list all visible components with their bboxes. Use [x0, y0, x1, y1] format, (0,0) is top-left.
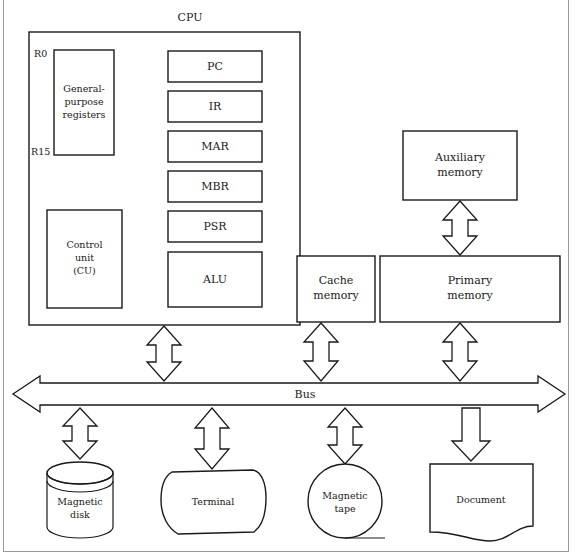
register-label-mar: MAR — [201, 140, 229, 153]
arrow-primary-bus — [443, 323, 477, 381]
system-bus[interactable] — [13, 376, 565, 412]
cache-memory-label-line1: Cache — [319, 274, 354, 287]
arrow-bus-document — [452, 408, 490, 461]
cache-memory-label-line2: memory — [313, 289, 359, 302]
gpr-label-line2: purpose — [64, 96, 103, 107]
control-unit-label-line2: unit — [75, 252, 94, 263]
arrow-cpu-bus — [147, 326, 181, 381]
magnetic-tape-label-line2: tape — [334, 503, 356, 514]
arrow-bus-terminal — [195, 408, 229, 469]
arrow-bus-magnetic-disk — [63, 408, 97, 459]
primary-memory-label-line2: memory — [447, 289, 493, 302]
magnetic-tape-label-line1: Magnetic — [322, 490, 367, 501]
architecture-diagram: CPU General- purpose registers R0 R15 Co… — [0, 0, 580, 558]
auxiliary-memory-label-line2: memory — [437, 166, 483, 179]
gpr-label-line3: registers — [62, 109, 105, 120]
control-unit-label-line1: Control — [66, 239, 102, 250]
register-marker-r0: R0 — [34, 48, 47, 59]
magnetic-disk-label-line1: Magnetic — [57, 496, 102, 507]
arrow-bus-magnetic-tape — [328, 408, 362, 464]
primary-memory-label-line1: Primary — [448, 274, 493, 287]
register-label-mbr: MBR — [201, 180, 229, 193]
register-label-ir: IR — [209, 100, 222, 113]
bus-label: Bus — [295, 388, 316, 401]
magnetic-disk-label-line2: disk — [70, 509, 90, 520]
document-label: Document — [456, 494, 506, 505]
register-label-pc: PC — [207, 60, 223, 73]
gpr-label-line1: General- — [63, 83, 104, 94]
register-marker-r15: R15 — [31, 146, 50, 157]
magnetic-tape-shape[interactable] — [308, 464, 382, 538]
terminal-label: Terminal — [192, 496, 235, 507]
diagram-page: CPU General- purpose registers R0 R15 Co… — [0, 0, 580, 558]
arrow-auxiliary-primary — [443, 201, 477, 255]
control-unit-label-line3: (CU) — [73, 265, 96, 276]
register-label-alu: ALU — [202, 273, 227, 286]
register-label-psr: PSR — [203, 220, 227, 233]
cpu-label: CPU — [178, 11, 203, 24]
auxiliary-memory-label-line1: Auxiliary — [434, 151, 486, 164]
arrow-cache-bus — [304, 323, 338, 381]
